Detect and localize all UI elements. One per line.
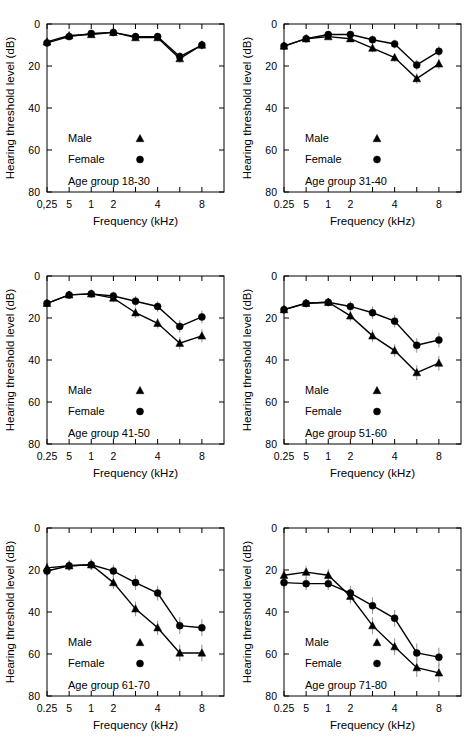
legend: MaleFemaleAge group 51-60 <box>305 384 387 439</box>
data-point-female <box>154 590 161 597</box>
data-point-female <box>110 29 117 36</box>
hearing-threshold-figure: 0204060800,2551248Frequency (kHz)Hearing… <box>0 0 473 755</box>
y-axis: 020406080 <box>28 18 224 198</box>
y-tick-label: 0 <box>271 522 277 534</box>
x-tick-label: 4 <box>155 702 161 714</box>
data-point-female <box>110 568 117 575</box>
x-tick-label: 1 <box>88 450 94 462</box>
data-point-female <box>88 30 95 37</box>
y-tick-label: 40 <box>28 354 40 366</box>
series-line-male <box>284 302 439 372</box>
legend-marker-female <box>137 408 144 415</box>
data-point-male <box>132 309 140 316</box>
legend-marker-female <box>374 408 381 415</box>
legend-marker-male <box>136 386 144 393</box>
x-axis-title: Frequency (kHz) <box>93 719 178 731</box>
y-tick-label: 0 <box>271 270 277 282</box>
legend-label-female: Female <box>68 657 105 669</box>
plot-canvas: 0204060800.2551248Frequency (kHz)Hearing… <box>0 252 236 502</box>
data-point-female <box>369 309 376 316</box>
x-axis-title: Frequency (kHz) <box>93 467 178 479</box>
y-tick-label: 0 <box>271 18 277 30</box>
data-point-female <box>132 579 139 586</box>
data-point-female <box>132 298 139 305</box>
legend-marker-female <box>374 660 381 667</box>
series-line-female <box>47 294 202 327</box>
data-point-female <box>176 622 183 629</box>
data-point-female <box>132 33 139 40</box>
x-tick-label: 4 <box>392 702 398 714</box>
legend: MaleFemaleAge group 41-50 <box>68 384 150 439</box>
data-point-female <box>413 61 420 68</box>
plot-frame <box>284 276 461 444</box>
x-tick-label: 2 <box>347 450 353 462</box>
legend-label-male: Male <box>68 636 92 648</box>
data-point-female <box>325 580 332 587</box>
legend: MaleFemaleAge group 61-70 <box>68 636 150 691</box>
data-point-female <box>198 42 205 49</box>
series-lines <box>47 294 202 343</box>
x-tick-label: 0.25 <box>274 450 295 462</box>
y-tick-label: 80 <box>265 690 277 702</box>
y-tick-label: 20 <box>265 564 277 576</box>
panel-age-group-61-70: 0204060800.2551248Frequency (kHz)Hearing… <box>0 504 236 754</box>
x-tick-label: 2 <box>347 702 353 714</box>
data-point-female <box>66 562 73 569</box>
data-point-female <box>325 299 332 306</box>
y-tick-label: 40 <box>28 102 40 114</box>
panel-title: Age group 31-40 <box>305 175 387 187</box>
y-tick-label: 20 <box>265 312 277 324</box>
data-point-male <box>154 319 162 326</box>
x-axis-title: Frequency (kHz) <box>330 215 415 227</box>
x-tick-label: 8 <box>199 198 205 210</box>
data-point-female <box>413 342 420 349</box>
data-point-female <box>66 33 73 40</box>
x-tick-label: 2 <box>110 702 116 714</box>
x-axis-title: Frequency (kHz) <box>330 467 415 479</box>
error-bars <box>284 298 439 380</box>
legend-label-male: Male <box>68 132 92 144</box>
y-tick-label: 40 <box>265 354 277 366</box>
y-axis-title: Hearing threshold level (dB) <box>241 289 253 432</box>
legend-marker-male <box>373 386 381 393</box>
plot-frame <box>47 24 224 192</box>
legend-label-male: Male <box>68 384 92 396</box>
legend-marker-male <box>136 638 144 645</box>
y-tick-label: 20 <box>28 564 40 576</box>
y-axis: 020406080 <box>28 522 224 702</box>
data-point-female <box>369 602 376 609</box>
panel-age-group-51-60: 0204060800.2551248Frequency (kHz)Hearing… <box>237 252 473 502</box>
panel-age-group-71-80: 0204060800.2551248Frequency (kHz)Hearing… <box>237 504 473 754</box>
y-tick-label: 20 <box>265 60 277 72</box>
data-markers <box>280 31 443 82</box>
data-point-female <box>176 323 183 330</box>
data-point-female <box>154 303 161 310</box>
x-tick-label: 0,25 <box>37 198 58 210</box>
x-tick-label: 0.25 <box>274 198 295 210</box>
panel-title: Age group 51-60 <box>305 427 387 439</box>
data-point-female <box>435 654 442 661</box>
x-tick-label: 8 <box>436 198 442 210</box>
legend-label-male: Male <box>305 132 329 144</box>
legend-label-female: Female <box>68 153 105 165</box>
data-point-female <box>391 615 398 622</box>
data-point-female <box>303 300 310 307</box>
plot-canvas: 0204060800,2551248Frequency (kHz)Hearing… <box>0 0 236 250</box>
plot-canvas: 0204060800.2551248Frequency (kHz)Hearing… <box>237 252 473 502</box>
series-lines <box>284 302 439 372</box>
legend-label-female: Female <box>305 153 342 165</box>
y-tick-label: 80 <box>265 438 277 450</box>
y-axis-title: Hearing threshold level (dB) <box>4 541 16 684</box>
data-point-female <box>391 318 398 325</box>
legend-marker-male <box>136 134 144 141</box>
y-tick-label: 60 <box>28 144 40 156</box>
panel-title: Age group 71-80 <box>305 679 387 691</box>
y-tick-label: 80 <box>265 186 277 198</box>
y-axis: 020406080 <box>265 522 461 702</box>
data-point-female <box>66 291 73 298</box>
legend-marker-male <box>373 134 381 141</box>
y-tick-label: 80 <box>28 186 40 198</box>
y-tick-label: 60 <box>28 648 40 660</box>
legend: MaleFemaleAge group 71-80 <box>305 636 387 691</box>
data-point-male <box>346 312 354 319</box>
